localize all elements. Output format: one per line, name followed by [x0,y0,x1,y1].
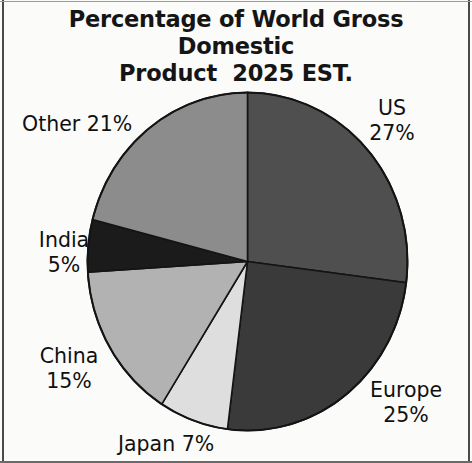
pie-label-japan: Japan 7% [118,432,288,457]
pie-chart: US 27% Other 21% India 5% China 15% Japa… [0,0,472,463]
pie-label-china: China 15% [14,344,124,394]
pie-label-us: US 27% [346,96,438,146]
pie-label-europe: Europe 25% [350,378,462,428]
chart-page: Percentage of World Gross Domestic Produ… [0,0,472,463]
pie-label-india: India 5% [18,228,110,278]
pie-label-other: Other 21% [22,112,192,137]
